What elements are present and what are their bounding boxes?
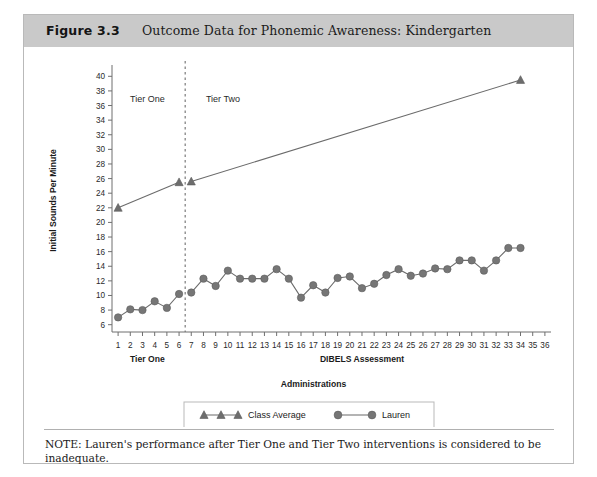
data-point-class-average <box>175 178 183 186</box>
data-point-lauren <box>334 274 341 281</box>
series-line-class-average <box>118 182 179 208</box>
data-point-lauren <box>407 272 414 279</box>
x-tick-label: 9 <box>213 341 218 350</box>
x-axis-phase-label: Tier One <box>130 354 165 364</box>
data-point-lauren <box>370 280 377 287</box>
y-tick-label: 28 <box>96 160 106 169</box>
data-point-lauren <box>175 290 182 297</box>
data-point-lauren <box>468 257 475 264</box>
chart-plot-area: 6810121416182022242628303234363840123456… <box>24 47 573 427</box>
data-point-lauren <box>285 275 292 282</box>
y-tick-label: 32 <box>96 131 106 140</box>
data-point-lauren <box>273 265 280 272</box>
y-tick-label: 18 <box>96 233 106 242</box>
data-point-lauren <box>151 298 158 305</box>
y-tick-label: 38 <box>96 87 106 96</box>
data-point-lauren <box>395 265 402 272</box>
x-axis-title: DIBELS Assessment <box>320 354 404 364</box>
x-tick-label: 30 <box>467 341 477 350</box>
data-point-lauren <box>249 275 256 282</box>
x-tick-label: 31 <box>479 341 489 350</box>
x-tick-label: 13 <box>260 341 270 350</box>
x-tick-label: 10 <box>223 341 233 350</box>
data-point-lauren <box>358 284 365 291</box>
y-tick-label: 10 <box>96 291 106 300</box>
y-tick-label: 12 <box>96 277 106 286</box>
data-point-lauren <box>261 275 268 282</box>
data-point-lauren <box>492 257 499 264</box>
legend-label: Class Average <box>248 410 306 420</box>
x-tick-label: 19 <box>333 341 343 350</box>
data-point-lauren <box>346 273 353 280</box>
x-tick-label: 16 <box>296 341 306 350</box>
data-point-lauren <box>297 294 304 301</box>
data-point-lauren <box>114 314 121 321</box>
figure-number: Figure 3.3 <box>46 23 120 38</box>
legend-label: Lauren <box>382 410 410 420</box>
legend-marker-circle <box>368 411 376 419</box>
y-tick-label: 40 <box>96 72 106 81</box>
x-tick-label: 22 <box>370 341 380 350</box>
data-point-lauren <box>127 306 134 313</box>
legend-marker-circle <box>334 411 342 419</box>
x-tick-label: 12 <box>248 341 258 350</box>
x-tick-label: 11 <box>236 341 245 350</box>
series-line-lauren <box>191 248 520 298</box>
x-tick-label: 34 <box>516 341 526 350</box>
phase-annotation: Tier Two <box>206 94 240 104</box>
x-tick-label: 3 <box>140 341 145 350</box>
x-tick-label: 36 <box>540 341 550 350</box>
y-tick-label: 26 <box>96 175 106 184</box>
data-point-lauren <box>212 282 219 289</box>
data-point-lauren <box>188 289 195 296</box>
data-point-lauren <box>163 304 170 311</box>
x-tick-label: 24 <box>394 341 404 350</box>
x-tick-label: 6 <box>177 341 182 350</box>
x-tick-label: 29 <box>455 341 465 350</box>
x-tick-label: 35 <box>528 341 538 350</box>
data-point-lauren <box>444 265 451 272</box>
x-tick-label: 28 <box>443 341 453 350</box>
data-point-lauren <box>517 244 524 251</box>
figure-container: Figure 3.3 Outcome Data for Phonemic Awa… <box>23 14 574 464</box>
y-tick-label: 22 <box>96 204 106 213</box>
y-tick-label: 8 <box>100 306 105 315</box>
x-tick-label: 32 <box>492 341 502 350</box>
x-tick-label: 27 <box>431 341 441 350</box>
x-tick-label: 23 <box>382 341 392 350</box>
data-point-lauren <box>419 270 426 277</box>
series-line-class-average <box>191 80 520 182</box>
x-tick-label: 15 <box>284 341 294 350</box>
data-point-lauren <box>456 257 463 264</box>
figure-note: NOTE: Lauren's performance after Tier On… <box>45 438 560 466</box>
data-point-lauren <box>200 275 207 282</box>
x-tick-label: 26 <box>418 341 428 350</box>
x-tick-label: 14 <box>272 341 282 350</box>
data-point-class-average <box>516 76 524 84</box>
x-tick-label: 5 <box>165 341 170 350</box>
y-tick-label: 36 <box>96 102 106 111</box>
x-tick-label: 4 <box>152 341 157 350</box>
x-tick-label: 2 <box>128 341 133 350</box>
phase-annotation: Tier One <box>130 94 165 104</box>
y-tick-label: 14 <box>96 262 106 271</box>
x-axis-secondary-title: Administrations <box>281 379 347 389</box>
y-axis-title: Initial Sounds Per Minute <box>48 149 58 252</box>
data-point-lauren <box>480 267 487 274</box>
data-point-lauren <box>139 306 146 313</box>
data-point-lauren <box>383 271 390 278</box>
y-tick-label: 34 <box>96 116 106 125</box>
y-tick-label: 20 <box>96 218 106 227</box>
data-point-lauren <box>505 244 512 251</box>
x-tick-label: 33 <box>504 341 514 350</box>
note-divider <box>44 429 554 430</box>
data-point-lauren <box>322 289 329 296</box>
x-tick-label: 7 <box>189 341 194 350</box>
x-tick-label: 20 <box>345 341 355 350</box>
y-tick-label: 30 <box>96 145 106 154</box>
y-tick-label: 16 <box>96 248 106 257</box>
figure-header-band: Figure 3.3 Outcome Data for Phonemic Awa… <box>24 15 573 47</box>
x-tick-label: 8 <box>201 341 206 350</box>
x-tick-label: 17 <box>309 341 319 350</box>
chart-svg: 6810121416182022242628303234363840123456… <box>24 47 573 427</box>
